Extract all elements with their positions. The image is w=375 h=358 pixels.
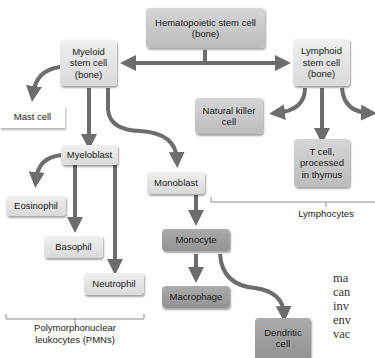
node-dendritic-cell: Dendritic cell	[255, 318, 311, 358]
pmns-line2: leukocytes (PMNs)	[20, 334, 130, 346]
monoblast-label: Monoblast	[154, 177, 198, 189]
myeloid-line2: stem cell	[70, 57, 107, 69]
node-t-cell: T cell, processed in thymus	[294, 139, 350, 187]
mast-label: Mast cell	[14, 111, 51, 123]
label-pmns: Polymorphonuclear leukocytes (PMNs)	[20, 322, 130, 345]
myeloblast-label: Myeloblast	[67, 149, 112, 161]
arrow-to-monoblast	[108, 88, 177, 160]
lymphoid-line2: stem cell	[303, 57, 340, 69]
pmns-line1: Polymorphonuclear	[20, 322, 130, 334]
arrow-to-mast	[33, 67, 60, 94]
node-mast-cell: Mast cell	[0, 106, 65, 128]
body-line-5: vac	[333, 327, 351, 341]
body-line-3: inv	[333, 299, 351, 313]
node-myeloid-stem-cell: Myeloid stem cell (bone)	[60, 40, 117, 86]
dendritic-line2: cell	[276, 338, 290, 350]
node-monoblast: Monoblast	[147, 172, 205, 194]
arrow-to-eosinophil	[36, 155, 62, 180]
tcell-line2: processed	[300, 157, 344, 169]
body-line-1: ma	[333, 271, 351, 285]
nk-line1: Natural killer	[203, 105, 256, 117]
node-hematopoietic-stem-cell: Hematopoietic stem cell (bone)	[146, 8, 265, 48]
body-line-2: can	[333, 285, 351, 299]
node-natural-killer-cell: Natural killer cell	[195, 98, 263, 134]
node-monocyte: Monocyte	[162, 229, 230, 251]
dendritic-line1: Dendritic	[264, 327, 302, 339]
neutrophil-label: Neutrophil	[92, 278, 135, 290]
lymphoid-line3: (bone)	[308, 68, 335, 80]
myeloid-line1: Myeloid	[72, 46, 105, 58]
lymphoid-line1: Lymphoid	[301, 45, 342, 57]
tcell-line1: T cell,	[309, 146, 334, 158]
nk-line2: cell	[222, 116, 236, 128]
basophil-label: Basophil	[55, 241, 91, 253]
node-lymphoid-stem-cell: Lymphoid stem cell (bone)	[293, 39, 350, 86]
node-macrophage: Macrophage	[162, 286, 230, 308]
monocyte-label: Monocyte	[175, 234, 216, 246]
tcell-line3: in thymus	[302, 169, 343, 181]
node-eosinophil: Eosinophil	[6, 196, 66, 216]
arrow-to-offscreen	[342, 88, 369, 113]
body-line-4: env	[333, 313, 351, 327]
node-basophil: Basophil	[44, 236, 103, 258]
macrophage-label: Macrophage	[170, 291, 223, 303]
label-lymphocytes: Lymphocytes	[293, 208, 359, 220]
arrow-to-nk	[277, 88, 305, 113]
hsc-line2: (bone)	[192, 28, 219, 40]
bracket-lymphocytes	[211, 197, 375, 207]
hsc-line1: Hematopoietic stem cell	[155, 17, 256, 29]
eosinophil-label: Eosinophil	[14, 200, 58, 212]
body-text-fragment: ma can inv env vac	[333, 271, 351, 341]
myeloid-line3: (bone)	[75, 69, 102, 81]
node-myeloblast: Myeloblast	[61, 145, 118, 165]
node-neutrophil: Neutrophil	[84, 273, 144, 295]
